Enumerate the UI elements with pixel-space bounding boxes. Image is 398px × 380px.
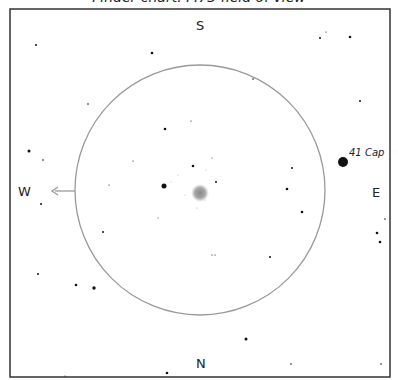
west-arrow-icon: [52, 187, 75, 195]
star: [102, 231, 104, 233]
star: [64, 375, 65, 376]
star: [132, 160, 133, 161]
star: [211, 254, 212, 255]
star: [380, 363, 382, 365]
star: [87, 103, 89, 105]
star: [108, 184, 109, 185]
star: [245, 338, 248, 341]
star: [162, 184, 167, 189]
star: [325, 31, 326, 32]
star: [252, 78, 254, 80]
faint-star: [205, 200, 206, 201]
star: [28, 150, 31, 153]
star: [338, 157, 348, 167]
star: [42, 159, 44, 161]
faint-star: [206, 170, 207, 171]
star: [290, 363, 292, 365]
direction-label-south: S: [196, 19, 204, 32]
faint-star: [197, 208, 198, 209]
star: [376, 232, 379, 235]
faint-star: [185, 195, 186, 196]
cluster-target-glow: [191, 184, 209, 202]
star: [192, 165, 195, 168]
faint-star: [178, 175, 179, 176]
star-label-41-cap: 41 Cap: [349, 148, 384, 158]
star: [215, 181, 217, 183]
star-field: [28, 31, 386, 376]
star: [40, 203, 42, 205]
star: [212, 158, 213, 159]
star: [319, 37, 321, 39]
star: [151, 52, 154, 55]
star: [164, 128, 167, 131]
star: [269, 256, 271, 258]
star: [35, 44, 37, 46]
star: [379, 241, 382, 244]
star: [286, 188, 289, 191]
star: [214, 254, 215, 255]
star: [158, 218, 159, 219]
star: [37, 273, 39, 275]
faint-star: [171, 182, 172, 183]
star: [166, 372, 169, 375]
star: [75, 284, 78, 287]
star: [291, 167, 293, 169]
direction-label-north: N: [196, 357, 206, 370]
direction-label-west: W: [18, 185, 31, 198]
star: [190, 120, 191, 121]
star: [301, 211, 304, 214]
star-chart: [0, 0, 398, 380]
star: [349, 36, 352, 39]
star: [359, 100, 361, 102]
star: [92, 286, 95, 289]
direction-label-east: E: [372, 186, 380, 199]
star: [384, 218, 386, 220]
